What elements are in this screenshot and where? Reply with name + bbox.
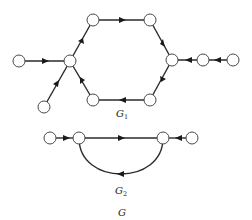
arrow-icon [118, 135, 125, 141]
node [87, 94, 99, 106]
graph-g1-label: G1 [116, 108, 128, 121]
arrow-icon [78, 38, 84, 44]
graph-g2-edges [50, 138, 192, 174]
graph-g2-label: G2 [115, 185, 127, 198]
node [87, 14, 99, 26]
node [64, 55, 76, 67]
arrow-icon [175, 135, 182, 141]
arrow-icon [119, 17, 126, 23]
arrow-icon [214, 57, 221, 63]
node [144, 14, 156, 26]
node [38, 101, 50, 113]
node [73, 132, 85, 144]
node [157, 132, 169, 144]
arrow-icon [117, 171, 124, 177]
node [44, 132, 56, 144]
arrow-icon [119, 97, 126, 103]
arrow-icon [185, 57, 192, 63]
figure-caption: G [118, 207, 126, 218]
node [197, 54, 209, 66]
graph-figure: G1 G2 G [0, 0, 252, 220]
node [13, 55, 25, 67]
arrow-icon [63, 135, 70, 141]
node [144, 94, 156, 106]
node [186, 132, 198, 144]
node [166, 54, 178, 66]
node [227, 54, 239, 66]
arrow-icon [42, 58, 49, 64]
